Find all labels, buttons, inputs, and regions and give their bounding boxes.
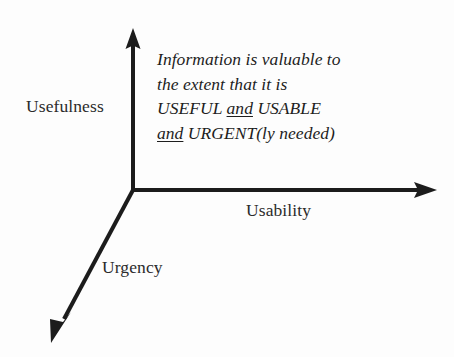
arrow-down-left-icon bbox=[50, 312, 71, 343]
callout-annotation: Information is valuable to the extent th… bbox=[157, 47, 409, 145]
callout-line-3-prefix: USEFUL bbox=[157, 98, 227, 118]
callout-line-3-suffix: USABLE bbox=[253, 98, 321, 118]
callout-line-4-suffix: URGENT(ly needed) bbox=[183, 123, 335, 143]
usefulness-axis-label: Usefulness bbox=[26, 96, 104, 117]
usability-axis bbox=[131, 182, 437, 198]
callout-line-4-conjunction: and bbox=[157, 123, 183, 143]
callout-line-4: and URGENT(ly needed) bbox=[157, 121, 409, 146]
usefulness-axis bbox=[126, 28, 141, 190]
callout-line-2: the extent that it is bbox=[157, 72, 409, 97]
urgency-axis-line bbox=[64, 190, 133, 319]
urgency-axis-label: Urgency bbox=[102, 257, 163, 278]
diagram-canvas: Usefulness Usability Urgency Information… bbox=[0, 0, 454, 357]
callout-line-3-conjunction: and bbox=[227, 98, 253, 118]
callout-line-1: Information is valuable to bbox=[157, 47, 409, 72]
usability-axis-label: Usability bbox=[246, 200, 311, 221]
callout-line-3: USEFUL and USABLE bbox=[157, 96, 409, 121]
